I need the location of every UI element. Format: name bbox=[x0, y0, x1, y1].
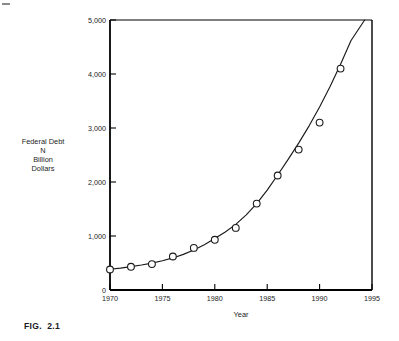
x-tick-label-1970: 1970 bbox=[102, 294, 118, 303]
y-tick-label-3000: 3,000 bbox=[88, 124, 106, 133]
data-point-1984 bbox=[253, 200, 260, 207]
y-axis-title-line-4: Dollars bbox=[32, 164, 55, 173]
x-axis-title: Year bbox=[234, 310, 249, 319]
y-axis-title-line-3: Billion bbox=[33, 155, 53, 164]
plot-frame bbox=[110, 20, 372, 290]
y-tick-label-2000: 2,000 bbox=[88, 178, 106, 187]
figure-caption: FIG. 2.1 bbox=[24, 321, 60, 331]
data-point-1982 bbox=[232, 225, 239, 232]
x-tick-label-1985: 1985 bbox=[259, 294, 275, 303]
data-point-1970 bbox=[107, 266, 114, 273]
data-point-1978 bbox=[190, 244, 197, 251]
y-axis-title: Federal Debt N Billion Dollars bbox=[22, 137, 65, 173]
data-point-1990 bbox=[316, 119, 323, 126]
y-tick-label-1000: 1,000 bbox=[88, 232, 106, 241]
trend-curve bbox=[110, 20, 365, 269]
x-axis-tick-labels: 1970 1975 1980 1985 1990 1995 bbox=[102, 294, 380, 303]
data-point-1986 bbox=[274, 172, 281, 179]
data-point-1992 bbox=[337, 65, 344, 72]
data-point-1980 bbox=[211, 236, 218, 243]
x-tick-label-1990: 1990 bbox=[312, 294, 328, 303]
data-point-1974 bbox=[149, 261, 156, 268]
data-point-1988 bbox=[295, 146, 302, 153]
y-axis-tick-labels: 0 1,000 2,000 3,000 4,000 5,000 bbox=[88, 16, 106, 295]
data-point-1976 bbox=[169, 253, 176, 260]
x-tick-label-1975: 1975 bbox=[154, 294, 170, 303]
x-tick-label-1980: 1980 bbox=[207, 294, 223, 303]
data-point-1972 bbox=[128, 263, 135, 270]
data-point-markers bbox=[107, 65, 344, 273]
figure-container: 0 1,000 2,000 3,000 4,000 5,000 1970 197… bbox=[0, 0, 399, 341]
y-tick-label-5000: 5,000 bbox=[88, 16, 106, 25]
federal-debt-chart: 0 1,000 2,000 3,000 4,000 5,000 1970 197… bbox=[0, 0, 399, 341]
y-tick-label-4000: 4,000 bbox=[88, 70, 106, 79]
x-tick-label-1995: 1995 bbox=[364, 294, 380, 303]
y-axis-title-line-2: N bbox=[40, 146, 45, 155]
y-axis-title-line-1: Federal Debt bbox=[22, 137, 65, 146]
